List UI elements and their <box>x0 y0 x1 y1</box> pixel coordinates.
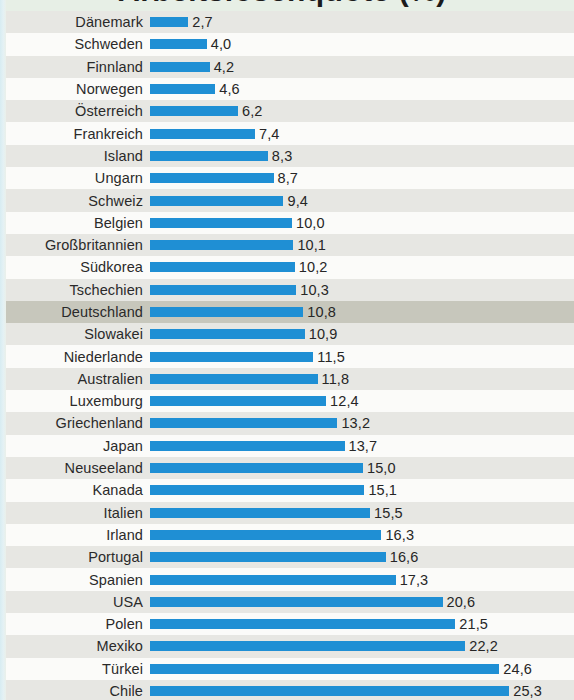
chart-title: Arbeitslosenquote (%) <box>118 0 447 8</box>
bar-row-label: Tschechien <box>0 282 150 298</box>
bar-rows-container: Dänemark2,7Schweden4,0Finnland4,2Norwege… <box>0 11 574 700</box>
bar-row-label: Österreich <box>0 103 150 119</box>
bar-row-label: Ungarn <box>0 170 150 186</box>
bar-value-label: 22,2 <box>469 638 498 654</box>
chart-title-band: Arbeitslosenquote (%) <box>0 0 574 11</box>
bar-row: Finnland4,2 <box>0 56 574 78</box>
bar-value-label: 25,3 <box>513 683 542 699</box>
bar-track: 9,4 <box>150 189 574 211</box>
bar-value-label: 13,2 <box>341 415 370 431</box>
bar-row-label: Großbritannien <box>0 237 150 253</box>
bar-value-label: 12,4 <box>330 393 359 409</box>
bar-value-label: 4,2 <box>214 59 234 75</box>
bar-row-label: Norwegen <box>0 81 150 97</box>
bar <box>150 686 509 696</box>
bar-value-label: 17,3 <box>400 572 429 588</box>
bar <box>150 374 318 384</box>
bar <box>150 39 207 49</box>
bar-row: Japan13,7 <box>0 435 574 457</box>
bar-value-label: 11,8 <box>322 371 350 387</box>
bar-value-label: 4,6 <box>219 81 239 97</box>
bar <box>150 575 396 585</box>
bar <box>150 508 370 518</box>
bar <box>150 151 268 161</box>
bar-track: 10,8 <box>150 301 574 323</box>
bar <box>150 106 238 116</box>
bar-row-label: Portugal <box>0 549 150 565</box>
bar-row: Südkorea10,2 <box>0 256 574 278</box>
bar-value-label: 11,5 <box>317 349 345 365</box>
bar-row-label: Deutschland <box>0 304 150 320</box>
bar-value-label: 10,3 <box>300 282 329 298</box>
bar-value-label: 21,5 <box>459 616 488 632</box>
bar-track: 4,6 <box>150 78 574 100</box>
bar-value-label: 7,4 <box>259 126 279 142</box>
bar-row: Ungarn8,7 <box>0 167 574 189</box>
bar-row: Schweden4,0 <box>0 33 574 55</box>
bar-row: Deutschland10,8 <box>0 301 574 323</box>
bar <box>150 552 386 562</box>
bar-row: Mexiko22,2 <box>0 635 574 657</box>
bar <box>150 173 274 183</box>
bar-track: 15,0 <box>150 457 574 479</box>
bar-track: 22,2 <box>150 635 574 657</box>
bar <box>150 285 296 295</box>
bar <box>150 307 303 317</box>
bar-track: 10,2 <box>150 256 574 278</box>
bar-row: Niederlande11,5 <box>0 345 574 367</box>
bar-row-label: Niederlande <box>0 349 150 365</box>
bar-track: 10,9 <box>150 323 574 345</box>
bar-chart: Arbeitslosenquote (%) Dänemark2,7Schwede… <box>0 0 574 700</box>
bar-row: Norwegen4,6 <box>0 78 574 100</box>
bar-track: 15,5 <box>150 502 574 524</box>
bar-track: 20,6 <box>150 591 574 613</box>
bar-value-label: 10,9 <box>309 326 338 342</box>
bar-value-label: 20,6 <box>447 594 476 610</box>
bar-row-label: Schweiz <box>0 193 150 209</box>
bar-row: Portugal16,6 <box>0 546 574 568</box>
bar-row-label: Island <box>0 148 150 164</box>
bar <box>150 530 381 540</box>
bar-row-label: Irland <box>0 527 150 543</box>
bar-row: Irland16,3 <box>0 524 574 546</box>
bar-row: Slowakei10,9 <box>0 323 574 345</box>
bar <box>150 129 255 139</box>
bar-row-label: Belgien <box>0 215 150 231</box>
bar-row-label: Slowakei <box>0 326 150 342</box>
bar-row: Österreich6,2 <box>0 100 574 122</box>
bar-row-label: Neuseeland <box>0 460 150 476</box>
bar-value-label: 10,0 <box>296 215 325 231</box>
bar-track: 16,6 <box>150 546 574 568</box>
bar-track: 13,7 <box>150 435 574 457</box>
bar-row: Belgien10,0 <box>0 212 574 234</box>
bar <box>150 418 337 428</box>
bar-value-label: 15,1 <box>368 482 397 498</box>
bar-value-label: 24,6 <box>503 661 532 677</box>
bar <box>150 262 295 272</box>
bar-row: Neuseeland15,0 <box>0 457 574 479</box>
bar-track: 17,3 <box>150 568 574 590</box>
bar-value-label: 13,7 <box>349 438 378 454</box>
bar <box>150 485 364 495</box>
bar-track: 24,6 <box>150 658 574 680</box>
bar <box>150 218 292 228</box>
bar-value-label: 15,5 <box>374 505 403 521</box>
bar-row: Italien15,5 <box>0 502 574 524</box>
bar-track: 10,0 <box>150 212 574 234</box>
bar-track: 13,2 <box>150 412 574 434</box>
bar <box>150 597 443 607</box>
bar-track: 11,8 <box>150 368 574 390</box>
bar-row-label: USA <box>0 594 150 610</box>
bar-value-label: 2,7 <box>192 14 212 30</box>
bar <box>150 62 210 72</box>
bar-row-label: Südkorea <box>0 259 150 275</box>
bar <box>150 664 499 674</box>
bar-track: 16,3 <box>150 524 574 546</box>
bar <box>150 240 293 250</box>
bar-row-label: Spanien <box>0 572 150 588</box>
bar <box>150 641 465 651</box>
bar-row-label: Polen <box>0 616 150 632</box>
bar-row: Island8,3 <box>0 145 574 167</box>
bar-track: 4,2 <box>150 56 574 78</box>
bar <box>150 619 455 629</box>
